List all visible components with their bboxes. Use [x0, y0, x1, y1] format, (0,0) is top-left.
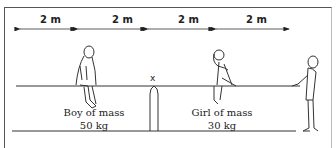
boy-mass-label: Boy of mass 50 kg — [58, 106, 130, 132]
girl-label-line2: 30 kg — [184, 119, 260, 132]
distance-label-3: 2 m — [178, 14, 199, 25]
girl-mass-label: Girl of mass 30 kg — [184, 106, 260, 132]
pivot-support — [150, 86, 158, 131]
boy-label-line2: 50 kg — [58, 119, 130, 132]
distance-label-2: 2 m — [112, 14, 133, 25]
distance-label-1: 2 m — [40, 14, 61, 25]
girl-label-line1: Girl of mass — [184, 106, 260, 119]
man-figure — [292, 56, 318, 131]
girl-figure — [214, 50, 237, 104]
distance-label-4: 2 m — [246, 14, 267, 25]
boy-figure — [76, 46, 96, 108]
pivot-label: x — [150, 73, 155, 83]
boy-label-line1: Boy of mass — [58, 106, 130, 119]
